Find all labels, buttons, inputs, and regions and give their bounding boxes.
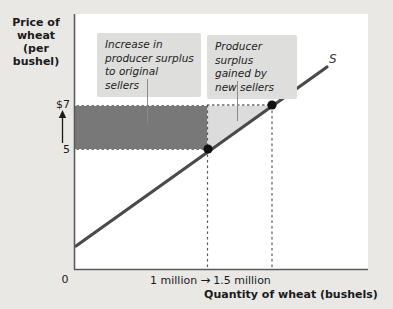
y-axis-title-line-3: (per bushel) — [2, 42, 70, 68]
y-tick-label-5: 5 — [48, 143, 70, 156]
x-tick-label-1-million: 1 million — [150, 274, 197, 287]
callout-leader-line-new — [237, 81, 238, 121]
x-tick-label-1-5-million: 1.5 million — [213, 274, 271, 287]
supply-curve-label: S — [329, 52, 337, 66]
x-tick-labels: 1 million→1.5 million — [150, 273, 350, 287]
callout-surplus-new-sellers: Producer surplus gained by new sellers — [207, 35, 297, 99]
region-increase-original-sellers — [74, 105, 207, 150]
supply-curve-figure: Price of wheat (per bushel) Quantity of … — [0, 0, 393, 309]
y-axis-title: Price of wheat (per bushel) — [2, 16, 70, 68]
point-original-equilibrium — [203, 144, 212, 153]
callout-increase-original-sellers: Increase in producer surplus to original… — [97, 33, 201, 97]
y-tick-label-7: $7 — [48, 98, 70, 111]
y-axis-title-line-2: wheat — [2, 29, 70, 42]
price-increase-arrow-head — [59, 110, 66, 118]
quantity-increase-arrow-icon: → — [197, 273, 213, 287]
origin-label: 0 — [58, 273, 72, 286]
callout-leader-line-original — [147, 79, 148, 123]
point-new-equilibrium — [267, 100, 276, 109]
y-axis-title-line-1: Price of — [2, 16, 70, 29]
x-axis-title: Quantity of wheat (bushels) — [196, 288, 386, 301]
